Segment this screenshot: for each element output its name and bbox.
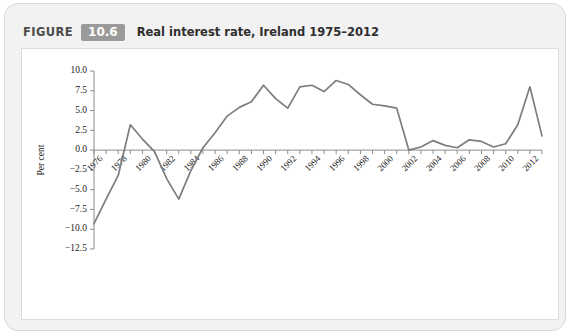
x-tick-label: 1998 xyxy=(351,153,371,173)
figure-title: Real interest rate, Ireland 1975–2012 xyxy=(137,25,379,39)
x-tick-label: 2000 xyxy=(375,153,395,173)
y-tick-label: 5.0 xyxy=(75,105,87,115)
x-tick-label: 1976 xyxy=(85,153,105,173)
y-tick-label: −5.0 xyxy=(70,184,87,194)
figure-number-badge: 10.6 xyxy=(81,24,125,41)
y-axis-title: Per cent xyxy=(36,144,46,175)
x-tick-label: 1986 xyxy=(206,153,226,173)
y-tick-label: 0.0 xyxy=(75,144,87,154)
y-tick-label: 7.5 xyxy=(75,85,87,95)
x-tick-label: 2002 xyxy=(400,153,420,173)
plot-area: 10.07.55.02.50.0−2.5−5.0−7.5−10.0−12.5Pe… xyxy=(21,48,559,320)
x-tick-label: 1988 xyxy=(230,153,250,173)
line-chart: 10.07.55.02.50.0−2.5−5.0−7.5−10.0−12.5Pe… xyxy=(22,49,558,319)
x-tick-label: 2006 xyxy=(448,153,468,173)
x-tick-label: 2010 xyxy=(496,153,516,173)
y-tick-label: 2.5 xyxy=(75,125,87,135)
x-tick-label: 1994 xyxy=(303,153,323,173)
x-tick-label: 2012 xyxy=(521,153,541,173)
figure-label: FIGURE xyxy=(23,25,73,39)
data-series-line xyxy=(94,80,542,223)
x-tick-label: 1980 xyxy=(133,153,153,173)
y-tick-label: 10.0 xyxy=(70,65,87,75)
figure-card: FIGURE 10.6 Real interest rate, Ireland … xyxy=(4,3,566,331)
x-tick-label: 1990 xyxy=(254,153,274,173)
x-tick-label: 1996 xyxy=(327,153,347,173)
x-tick-label: 2008 xyxy=(472,153,492,173)
x-tick-label: 2004 xyxy=(424,153,444,173)
y-tick-label: −7.5 xyxy=(70,204,87,214)
y-tick-label: −10.0 xyxy=(65,223,87,233)
y-tick-label: −12.5 xyxy=(65,243,87,253)
x-tick-label: 1992 xyxy=(278,153,298,173)
figure-header: FIGURE 10.6 Real interest rate, Ireland … xyxy=(23,22,379,42)
